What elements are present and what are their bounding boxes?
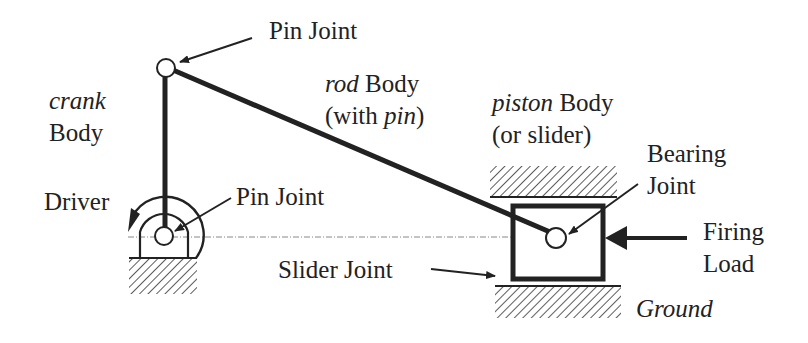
upper-guide-ground [490, 166, 617, 197]
piston-label-rest: Body [553, 89, 614, 116]
ground-label: Ground [636, 295, 713, 322]
top-pin-arrow [180, 38, 252, 62]
slider-joint-label: Slider Joint [278, 256, 393, 283]
firing-load-arrow [605, 226, 687, 250]
slider-joint-arrow [431, 269, 495, 276]
bearing-label-line2: Joint [647, 172, 696, 199]
bottom-pin-joint-label: Pin Joint [236, 183, 324, 210]
piston-label-italic: piston [490, 89, 553, 116]
rod-label-line2: (with pin) [325, 102, 424, 130]
driver-label: Driver [44, 188, 110, 215]
rod-label-rest: Body [359, 70, 420, 97]
bearing-label-line1: Bearing [647, 140, 727, 167]
rod-label-close: ) [416, 102, 424, 130]
rod-label-line1: rod Body [325, 70, 420, 97]
crank-ground [129, 258, 197, 294]
piston-label-line1: piston Body [490, 89, 614, 116]
firing-label-line1: Firing [703, 218, 765, 245]
bearing-pin-joint [546, 228, 566, 248]
rod-label-pin: pin [382, 102, 416, 129]
piston-label-line2: (or slider) [492, 121, 591, 149]
firing-label-line2: Load [703, 250, 755, 277]
lower-guide-ground [495, 286, 621, 318]
bottom-pin-joint [155, 227, 173, 245]
crank-label-line1: crank [49, 87, 107, 114]
rod-label-italic: rod [325, 70, 359, 97]
top-pin-joint-label: Pin Joint [269, 17, 357, 44]
top-pin-joint [157, 59, 175, 77]
rod-label-open: (with [325, 102, 384, 130]
crank-label-line2: Body [49, 119, 104, 146]
slider-crank-diagram: Pin Joint crank Body rod Body (with pin)… [0, 0, 808, 343]
